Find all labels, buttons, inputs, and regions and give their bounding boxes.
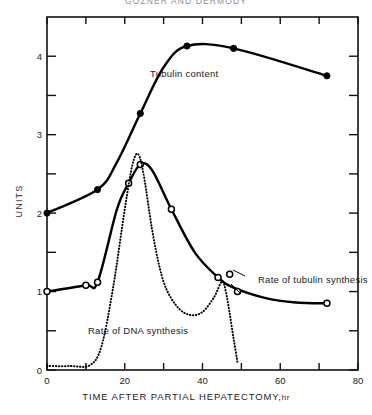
annotation-layer: Tubulin content Rate of tubulin synthesi…: [88, 68, 368, 336]
y-tick-label: 2: [37, 208, 42, 219]
data-point-filled: [184, 43, 190, 49]
data-point-open: [44, 289, 50, 295]
data-point-open: [227, 271, 233, 277]
x-tick-label: 0: [44, 375, 49, 386]
y-tick-label: 1: [37, 286, 42, 297]
data-point-open: [234, 289, 240, 295]
x-tick-label: 20: [119, 375, 130, 386]
data-point-open: [324, 300, 330, 306]
series-layer: [44, 43, 330, 367]
data-point-filled: [44, 210, 50, 216]
y-tick-label: 3: [37, 129, 42, 140]
figure-panel: GOZNER AND DERMODY UNITS TIME AFTER PART…: [0, 0, 372, 415]
data-point-open: [215, 274, 221, 280]
x-tick-label: 80: [353, 375, 364, 386]
data-point-filled: [137, 110, 143, 116]
data-point-filled: [94, 186, 100, 192]
y-tick-label: 0: [37, 365, 42, 376]
plot-area: 02040608001234 Tubulin content Rate of t…: [0, 0, 372, 415]
data-point-open: [95, 279, 101, 285]
label-tubulin-content: Tubulin content: [150, 68, 218, 79]
leader-line-upper: [233, 270, 245, 276]
y-tick-label: 4: [37, 51, 42, 62]
data-point-open: [168, 206, 174, 212]
label-rate-dna-synthesis: Rate of DNA synthesis: [88, 325, 188, 336]
x-tick-label: 60: [275, 375, 286, 386]
data-point-open: [83, 282, 89, 288]
data-point-filled: [324, 73, 330, 79]
data-point-filled: [231, 45, 237, 51]
x-tick-label: 40: [197, 375, 208, 386]
label-rate-tubulin-synthesis: Rate of tubulin synthesis: [258, 274, 368, 285]
